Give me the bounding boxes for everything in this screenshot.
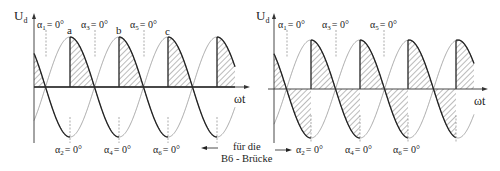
arrow-right-icon [286, 148, 292, 152]
left-point-b: b [116, 24, 122, 36]
left-alpha1-label: α1= 0° [37, 19, 64, 32]
left-x-axis-arrow-icon [244, 85, 250, 89]
right-alpha1-label: α1= 0° [278, 19, 305, 32]
right-alpha2-label: α2= 0° [296, 144, 323, 157]
left-alpha5-label: α5= 0° [130, 19, 157, 32]
right-bottom-dashed-markers [311, 115, 456, 143]
right-y-axis-label: Ud [256, 8, 269, 25]
left-y-axis-label: Ud [14, 8, 27, 25]
left-point-a: a [67, 24, 72, 36]
thyristor-waveform-diagram: Ud ωt α1= 0° α3= 0° α5= 0° a b c α2= 0° … [0, 0, 500, 171]
left-hatched-areas [34, 37, 235, 87]
arrow-left-icon [201, 146, 207, 150]
right-alpha6-label: α6= 0° [393, 144, 420, 157]
left-bottom-dashed-markers [70, 117, 217, 143]
left-point-c: c [165, 25, 170, 37]
right-alpha3-label: α3= 0° [322, 19, 349, 32]
right-alpha5-label: α5= 0° [370, 19, 397, 32]
right-alpha4-label: α4= 0° [345, 144, 372, 157]
left-alpha6-label: α6= 0° [153, 144, 180, 157]
b6-bridge-caption: für die B6 - Brücke [201, 141, 292, 164]
right-y-axis-arrow-icon [272, 13, 276, 19]
left-x-axis-label: ωt [234, 92, 246, 106]
left-alpha2-label: α2= 0° [55, 144, 82, 157]
caption-line2: B6 - Brücke [221, 153, 273, 164]
right-x-axis-label: ωt [474, 94, 486, 108]
left-alpha4-label: α4= 0° [104, 144, 131, 157]
right-x-axis-arrow-icon [482, 87, 488, 91]
caption-line1: für die [233, 141, 261, 152]
left-y-axis-arrow-icon [32, 13, 36, 19]
left-alpha3-label: α3= 0° [81, 19, 108, 32]
left-diagram: Ud ωt α1= 0° α3= 0° α5= 0° a b c α2= 0° … [14, 8, 250, 157]
right-diagram: Ud ωt α1= 0° α3= 0° α5= 0° α2= 0° α4= 0°… [256, 8, 488, 157]
